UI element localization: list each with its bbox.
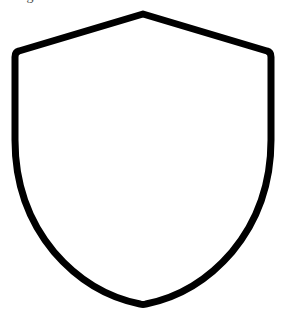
shield-outline-path — [15, 14, 271, 305]
caption-clip: Figure 1 — Heraldic shield outline — [0, 0, 285, 5]
shield-figure — [0, 0, 285, 310]
canvas: Figure 1 — Heraldic shield outline — [0, 0, 285, 310]
figure-caption: Figure 1 — Heraldic shield outline — [14, 0, 223, 3]
shield-svg — [0, 0, 285, 310]
